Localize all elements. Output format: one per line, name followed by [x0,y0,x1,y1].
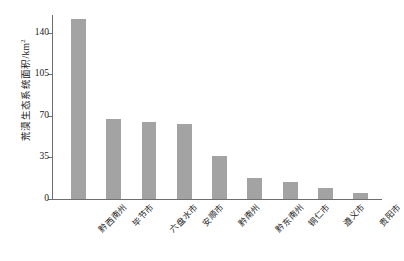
x-axis-label: 安顺市 [200,202,227,229]
y-tick-label: 70 [40,109,50,122]
y-axis-title-text: 荒漠生态系统面积/km [21,43,31,141]
x-axis-label: 铜仁市 [306,202,333,229]
bar-series [53,15,382,199]
x-axis-line [52,199,382,200]
bar [71,19,86,199]
bar [142,122,157,199]
y-tick-label: 105 [35,67,49,80]
bar [177,124,192,199]
x-axis-label: 贵阳市 [377,202,404,229]
y-tick-label: 140 [35,26,49,39]
x-axis-label: 六盘水市 [168,202,201,235]
bar [247,178,262,199]
bar [353,193,368,199]
bar [318,188,333,199]
y-tick-label: 0 [44,192,49,205]
x-axis-label: 黔南州 [235,202,262,229]
y-axis-title-superscript: 2 [19,39,26,43]
x-axis-labels: 黔西南州毕节市六盘水市安顺市黔南州黔东南州铜仁市遵义市贵阳市 [52,202,382,261]
plot-area: 03570105140 [52,15,382,200]
y-tick-label: 35 [40,150,50,163]
bar [283,182,298,199]
x-axis-label: 黔西南州 [97,202,130,235]
bar [212,156,227,199]
y-axis-title: 荒漠生态系统面积/km2 [18,0,36,190]
x-axis-label: 遵义市 [341,202,368,229]
x-axis-label: 黔东南州 [273,202,306,235]
x-axis-label: 毕节市 [130,202,157,229]
bar [106,119,121,199]
